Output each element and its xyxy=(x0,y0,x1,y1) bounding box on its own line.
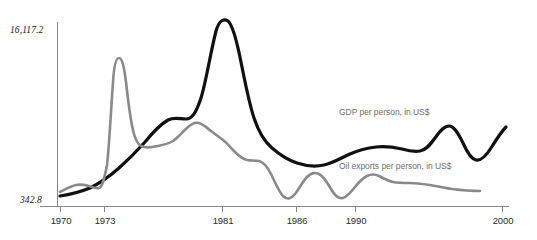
series-annotation-oil-exports-per-person: Oil exports per person, in US$ xyxy=(339,161,451,171)
x-tick-label-1970: 1970 xyxy=(51,215,72,226)
series-annotation-gdp-per-person: GDP per person, in US$ xyxy=(339,107,429,117)
chart-container: 16,117.2 342.8 1970 1973 1981 1986 1990 … xyxy=(0,0,537,240)
x-tick-label-1973: 1973 xyxy=(95,215,116,226)
series-line-oil-exports-per-person xyxy=(60,58,480,198)
x-tick-label-1986: 1986 xyxy=(287,215,308,226)
y-tick-label-top: 16,117.2 xyxy=(10,25,43,35)
x-tick-label-2000: 2000 xyxy=(493,215,514,226)
x-tick-label-1990: 1990 xyxy=(346,215,367,226)
chart-plot-area xyxy=(0,0,537,240)
x-axis-ticks xyxy=(61,207,503,212)
y-tick-label-bottom: 342.8 xyxy=(20,195,42,205)
x-tick-label-1981: 1981 xyxy=(213,215,234,226)
